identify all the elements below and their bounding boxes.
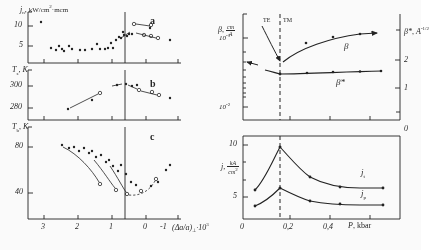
panel-c-filled-points (61, 144, 171, 187)
left-xlabel: (Δa/a)⊥·103 (172, 222, 209, 233)
panel-c-open-points (98, 177, 157, 195)
left-xtick-1: 1 (109, 223, 113, 231)
curve-beta (283, 33, 377, 62)
panel-bottom-right-ytick-5: 5 (233, 192, 237, 200)
panel-bottom-right-xtick-02: 0,2 (283, 223, 293, 231)
panel-b-open-points (98, 88, 160, 96)
left-xtick-3: 3 (41, 223, 45, 231)
panel-bottom-right-ylabel: j, kAcm2 (221, 160, 239, 175)
panel-a-open-points (132, 22, 159, 39)
panel-a-letter: a (150, 16, 155, 26)
panel-c-curves (63, 147, 155, 195)
curve-beta-incoming (262, 26, 280, 61)
curve-label-jp: jp (361, 189, 366, 200)
curve-label-beta-star: β* (336, 78, 345, 87)
panel-top-right-right-ylabel: β*, A-1/2 (404, 26, 429, 36)
left-xtick-2: 2 (75, 223, 79, 231)
panel-bottom-right-xlabel: P, kbar (348, 222, 371, 230)
j-units-fraction: kAcm2 (227, 160, 239, 175)
curve-beta-points (305, 33, 362, 45)
panel-c-ytick-40: 40 (15, 188, 23, 196)
panel-top-right-rtick-2: 2 (404, 56, 408, 64)
panel-b-letter: b (150, 79, 156, 89)
curve-beta-star-arrow (247, 62, 258, 65)
panel-c-letter: c (150, 132, 154, 142)
curve-label-jt: jt (361, 168, 365, 179)
panel-top-right-rtick-1: 1 (404, 84, 408, 92)
panel-bottom-right-xtick-0: 0 (240, 223, 244, 231)
panel-a-axes (28, 12, 181, 63)
panel-bottom-right-xtick-04: 0,4 (323, 223, 333, 231)
panel-top-right-ytick-1e-1: 10-1 (219, 33, 230, 42)
panel-c-ylabel: Tb, K (12, 123, 28, 133)
panel-bottom-right-rtick-0: 0 (404, 125, 408, 133)
panel-b-connectors (70, 84, 157, 108)
curve-beta-star (265, 70, 382, 74)
panel-top-right-axes (243, 14, 400, 120)
panel-a-ytick-10: 10 (14, 21, 22, 29)
panel-bottom-right-axes (243, 136, 400, 219)
panel-a-ylabel: jn, kW/cm2·mcm (20, 4, 68, 15)
panel-bottom-right-ytick-10: 10 (229, 140, 237, 148)
panel-b-axes (28, 70, 181, 120)
panel-b-ytick-280: 280 (10, 103, 22, 111)
left-xtick-minus1: -1 (160, 223, 167, 231)
mode-label-tm: TM (283, 17, 292, 23)
panel-c-ytick-80: 80 (15, 142, 23, 150)
panel-top-right-ytick-1e-2: 10-2 (219, 102, 230, 111)
mode-label-te: TE (263, 17, 270, 23)
curve-label-beta: β (344, 42, 348, 51)
left-xtick-0: 0 (143, 223, 147, 231)
panel-b-ytick-300: 300 (10, 81, 22, 89)
panel-a-ytick-5: 5 (19, 41, 23, 49)
panel-b-ylabel: Ts, K (12, 66, 28, 76)
